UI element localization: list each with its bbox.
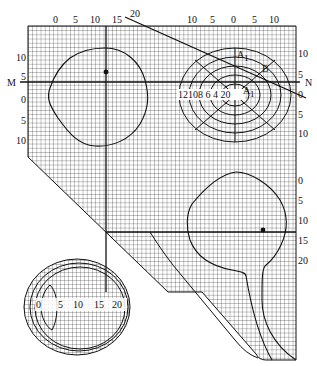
eye-projection-grid-diagram: 12108 6 4 20 A 1 B A 1 0 5 10 15 20 0 5 … [0,0,317,366]
right-contour-dot [261,228,266,233]
left-axis-0: 0 [21,94,26,105]
point-a1-subscript: 1 [244,53,249,63]
left-axis-10b: 10 [16,135,26,146]
eye-scale-0: 0 [36,299,41,310]
right-line-label-n: N [305,77,312,88]
top-axis-right-5a: 5 [210,14,215,25]
right-axis-0: 0 [298,89,303,100]
top-axis-right-10a: 10 [187,14,197,25]
left-axis-10: 10 [16,52,26,63]
top-axis-right-0: 0 [231,14,236,25]
right-axis-lower-0: 0 [298,175,303,186]
ring-scale-labels: 12108 6 4 20 [178,89,231,100]
top-axis-right-5b: 5 [252,14,257,25]
right-axis-lower-20: 20 [298,255,308,266]
top-axis-left-10: 10 [90,14,100,25]
right-axis-10: 10 [298,48,308,59]
right-axis-5b: 5 [298,109,303,120]
left-contour-center-dot [104,70,109,75]
right-axis-10-lower: 10 [298,128,308,139]
eye-scale-15: 15 [94,299,104,310]
top-axis-left-5: 5 [73,14,78,25]
right-axis-lower-15: 15 [298,235,308,246]
top-axis-diag-20: 20 [130,8,140,19]
eye-cross-section: 0 5 10 15 20 [24,259,130,355]
left-axis-5b: 5 [21,115,26,126]
eye-scale-10: 10 [73,299,83,310]
top-axis-left-0: 0 [53,14,58,25]
eye-scale-20: 20 [112,299,122,310]
left-axis-5: 5 [21,71,26,82]
right-axis-5: 5 [298,69,303,80]
right-axis-lower-5: 5 [298,195,303,206]
right-axis-lower-10: 10 [298,215,308,226]
point-a-subscript: 1 [250,89,255,99]
left-line-label-m: M [7,77,16,88]
point-b-label: B [262,63,269,74]
top-axis-right-10b: 10 [269,14,279,25]
top-axis-left-15: 15 [112,14,122,25]
eye-scale-5: 5 [58,299,63,310]
